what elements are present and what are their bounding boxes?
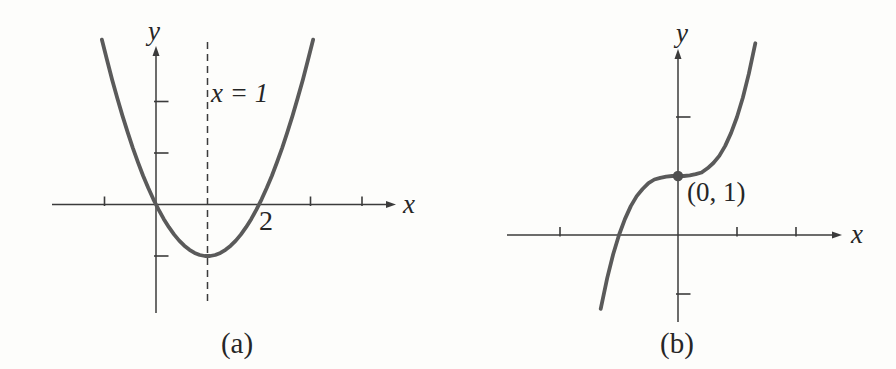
two-panel-graph-figure: y x x = 1 2 (a) y x (0, 1) (b) (0, 0, 896, 369)
chart-b: y x (0, 1) (b) (507, 18, 863, 360)
axis-of-symmetry-label: x = 1 (210, 78, 268, 108)
x-intercept-label: 2 (259, 205, 273, 236)
y-axis-arrowhead-icon (153, 46, 160, 56)
x-axis-label: x (850, 219, 863, 249)
chart-a: y x x = 1 2 (a) (52, 16, 415, 360)
x-axis-arrowhead-icon (832, 232, 842, 239)
y-axis-label: y (673, 18, 688, 48)
figure-canvas: y x x = 1 2 (a) y x (0, 1) (b) (0, 0, 896, 369)
caption-a: (a) (221, 327, 253, 360)
marked-point-label: (0, 1) (687, 177, 745, 207)
y-axis-label: y (145, 16, 160, 46)
x-axis-label: x (402, 189, 415, 219)
caption-b: (b) (660, 327, 694, 360)
y-axis-arrowhead-icon (675, 49, 682, 59)
marked-point (673, 171, 683, 181)
x-axis-arrowhead-icon (386, 201, 396, 208)
